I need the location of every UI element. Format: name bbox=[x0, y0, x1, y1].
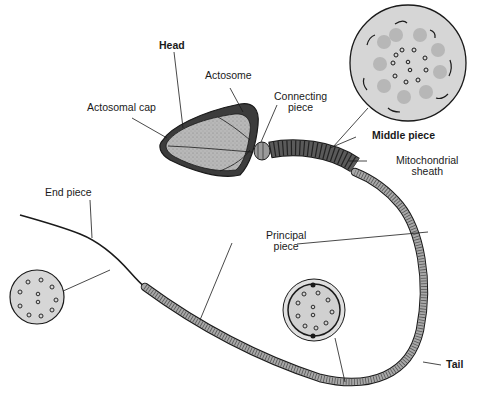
label-connecting-piece: Connecting piece bbox=[274, 91, 327, 113]
label-acrosome: Actosome bbox=[205, 70, 252, 81]
label-tail: Tail bbox=[446, 359, 463, 370]
principal-piece-cross-section bbox=[283, 279, 345, 341]
label-head: Head bbox=[159, 40, 185, 51]
middle-piece-cross-section bbox=[350, 5, 466, 121]
label-middle-piece: Middle piece bbox=[372, 130, 435, 141]
label-acrosomal-cap: Actosomal cap bbox=[87, 102, 156, 113]
sperm-diagram bbox=[0, 0, 478, 404]
label-principal-piece: Principal piece bbox=[266, 230, 306, 252]
label-end-piece: End piece bbox=[45, 187, 92, 198]
tail-principal-piece bbox=[145, 172, 424, 382]
label-mitochondrial-sheath: Mitochondrial sheath bbox=[396, 155, 458, 177]
connecting-piece bbox=[254, 142, 270, 160]
end-piece-cross-section bbox=[10, 270, 64, 324]
